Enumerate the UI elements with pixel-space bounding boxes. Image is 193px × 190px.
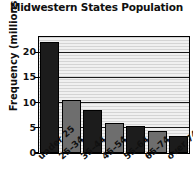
- y-axis-tick-label: 10: [14, 96, 36, 107]
- y-axis-tick-labels: 05101520: [14, 0, 36, 190]
- y-axis-tick-mark: [35, 77, 39, 78]
- y-axis-tick-label: 5: [14, 121, 36, 132]
- y-axis-tick-label: 0: [14, 147, 36, 158]
- y-axis-tick-label: 20: [14, 46, 36, 57]
- y-axis-tick-label: 15: [14, 71, 36, 82]
- x-axis-tick-labels: under 2525–3435–4445–5455–6465–74over 74: [38, 154, 190, 190]
- y-axis-tick-mark: [35, 102, 39, 103]
- chart-figure: Midwestern States Population Frequency (…: [0, 0, 193, 190]
- y-axis-tick-mark: [35, 52, 39, 53]
- y-axis-tick-mark: [35, 127, 39, 128]
